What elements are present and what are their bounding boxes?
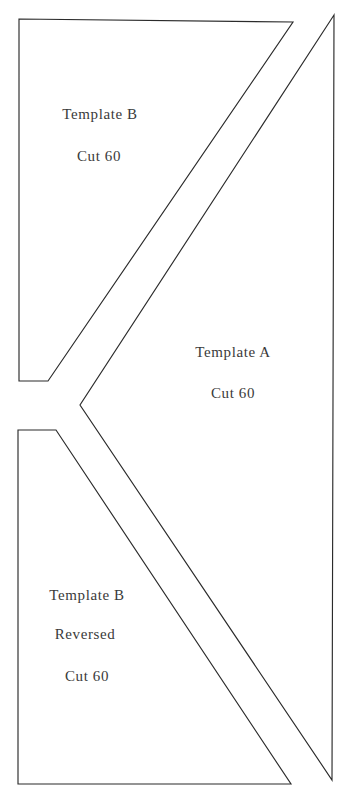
template-b-cut-label: Cut 60 — [77, 148, 121, 164]
template-b-name-label: Template B — [62, 106, 137, 122]
pattern-sheet: Template B Cut 60 Template A Cut 60 Temp… — [0, 0, 345, 794]
template-b-reversed-name-label: Template B — [49, 587, 124, 603]
pattern-canvas: Template B Cut 60 Template A Cut 60 Temp… — [0, 0, 345, 794]
template-a-name-label: Template A — [195, 344, 270, 360]
template-b-reversed-reversed-label: Reversed — [55, 626, 116, 642]
template-a-cut-label: Cut 60 — [211, 385, 255, 401]
template-b-reversed-cut-label: Cut 60 — [65, 668, 109, 684]
